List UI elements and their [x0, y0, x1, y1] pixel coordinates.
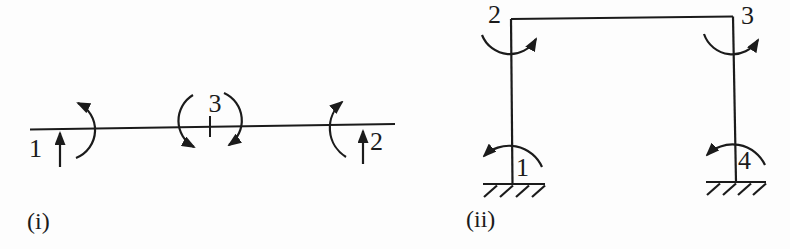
node3-label-ii: 3 — [741, 1, 754, 30]
node3-right-moment-cw-icon — [224, 93, 242, 145]
joint3-moment-ccw-icon — [704, 34, 758, 54]
left-support-hatch-icon — [484, 186, 545, 198]
frame-top-beam — [511, 17, 733, 20]
node3-left-moment-ccw-icon — [178, 95, 194, 147]
node2-moment-cw-icon — [330, 102, 346, 157]
joint2-moment-ccw-icon — [482, 35, 536, 54]
right-support-hatch-icon — [707, 184, 766, 196]
frame-left-column — [511, 19, 513, 184]
diagram-i: 1 2 3 (i) — [27, 89, 395, 234]
frame-right-column — [733, 17, 736, 183]
node4-label-ii: 4 — [738, 146, 751, 175]
node3-label: 3 — [209, 89, 222, 118]
node2-label: 2 — [370, 127, 383, 156]
figure-svg: 1 2 3 (i) — [0, 0, 790, 249]
node1-moment-ccw-icon — [76, 103, 95, 158]
beam-line — [30, 124, 395, 130]
node1-label-ii: 1 — [516, 153, 529, 182]
diagram-ii: 2 3 1 4 (ii) — [466, 0, 766, 232]
caption-ii: (ii) — [466, 206, 495, 232]
node2-label-ii: 2 — [488, 0, 501, 29]
figure-canvas: 1 2 3 (i) — [0, 0, 790, 249]
caption-i: (i) — [27, 208, 50, 234]
node1-label: 1 — [29, 134, 42, 163]
